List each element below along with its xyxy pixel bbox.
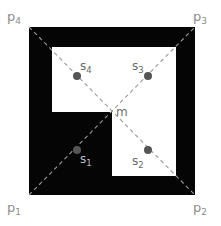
- site-label-s3-sub: 3: [138, 65, 143, 75]
- corner-label-p3: p3: [193, 10, 207, 23]
- site-label-s2-sub: 2: [138, 160, 143, 170]
- center-label-m: m: [116, 106, 128, 118]
- site-label-s1-sub: 1: [86, 158, 91, 168]
- site-dot-s3: [144, 72, 152, 80]
- geometry-figure: p4 p3 p1 p2 s4 s3 s1 s2 m: [0, 0, 221, 226]
- corner-label-p1: p1: [7, 201, 21, 214]
- site-dot-s2: [144, 146, 152, 154]
- corner-label-p1-sub: 1: [15, 207, 21, 217]
- corner-label-p2-sub: 2: [201, 207, 207, 217]
- figure-canvas: [0, 0, 221, 226]
- site-dot-s4: [73, 72, 81, 80]
- site-label-s4: s4: [80, 60, 92, 72]
- corner-label-p2: p2: [193, 201, 207, 214]
- corner-label-p4: p4: [7, 10, 21, 23]
- corner-label-p3-sub: 3: [201, 16, 207, 26]
- site-label-s3: s3: [132, 60, 144, 72]
- site-label-s1: s1: [80, 153, 92, 165]
- site-label-s2: s2: [132, 155, 144, 167]
- upper-hole: [52, 47, 176, 112]
- corner-label-p4-sub: 4: [15, 16, 21, 26]
- site-label-s4-sub: 4: [86, 65, 91, 75]
